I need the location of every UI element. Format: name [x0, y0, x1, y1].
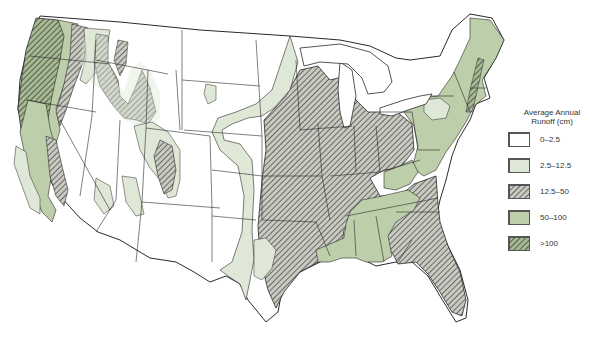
legend-item-gt-100: >100 [508, 230, 600, 256]
swatch-green-hatched [508, 236, 530, 251]
legend-title-line2: Runoff (cm) [504, 117, 600, 126]
legend-title: Average Annual Runoff (cm) [504, 108, 600, 126]
legend-item-0-2-5: 0–2.5 [508, 126, 600, 152]
swatch-white [508, 132, 530, 147]
legend-item-50-100: 50–100 [508, 204, 600, 230]
legend-label: 0–2.5 [540, 135, 560, 144]
legend-label: 12.5–50 [540, 187, 569, 196]
legend: Average Annual Runoff (cm) 0–2.5 2.5–12.… [508, 108, 600, 256]
swatch-medium-green [508, 210, 530, 225]
legend-label: 50–100 [540, 213, 567, 222]
legend-label: >100 [540, 239, 558, 248]
swatch-light-green [508, 158, 530, 173]
swatch-gray-hatched [508, 184, 530, 199]
legend-title-line1: Average Annual [504, 108, 600, 117]
legend-item-2-5-12-5: 2.5–12.5 [508, 152, 600, 178]
legend-item-12-5-50: 12.5–50 [508, 178, 600, 204]
legend-label: 2.5–12.5 [540, 161, 571, 170]
